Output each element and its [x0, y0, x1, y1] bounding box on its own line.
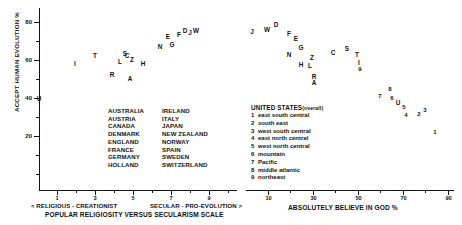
data-point: C — [331, 50, 336, 56]
us-legend-index: 5 — [251, 143, 258, 151]
left-x-tick-label-7: 7 — [165, 195, 177, 201]
left-x-caption-religious: < RELIGIOUS - CREATIONIST — [31, 203, 117, 209]
data-point: H — [141, 61, 146, 67]
left-y-tick-20 — [34, 136, 40, 137]
data-point: A — [312, 80, 317, 86]
us-legend-index: 3 — [251, 128, 258, 136]
right-x-tick-label-90: 90 — [442, 195, 455, 201]
data-point: Z — [310, 55, 314, 61]
us-legend-label: mountain — [258, 151, 285, 157]
us-legend-item: 2south east — [251, 120, 323, 128]
right-x-tick-minor — [290, 190, 291, 193]
legend-item: JAPAN — [162, 122, 208, 130]
left-y-tick-label-60: 60 — [18, 57, 32, 63]
data-point: E — [294, 36, 298, 42]
left-y-tick-label-20: 20 — [18, 133, 32, 139]
us-legend-item: 9northeast — [251, 174, 323, 182]
legend-item: ENGLAND — [108, 138, 144, 146]
us-legend-label: west south central — [258, 128, 311, 134]
data-point: 9 — [358, 66, 361, 72]
us-legend-item: 5west north central — [251, 143, 323, 151]
data-point: J — [188, 30, 192, 36]
data-point: T — [93, 53, 97, 59]
us-legend-title-suffix: (overall) — [302, 105, 323, 111]
left-x-tick-minor — [190, 190, 191, 193]
right-x-tick-label-70: 70 — [397, 195, 410, 201]
left-x-tick-minor — [76, 190, 77, 193]
data-point: U — [396, 100, 401, 106]
us-legend-index: 4 — [251, 135, 258, 143]
data-point: F — [287, 31, 291, 37]
us-legend-label: middle atlantic — [258, 167, 300, 173]
data-point: 2 — [417, 111, 420, 117]
us-legend-title-text: UNITED STATES — [251, 104, 302, 111]
data-point: 5 — [402, 104, 405, 110]
data-point: D — [274, 22, 279, 28]
us-legend-label: south east — [258, 120, 288, 126]
us-legend-index: 8 — [251, 167, 258, 175]
left-x-tick-minor — [228, 190, 229, 193]
scatter-figure: 80 60 40 20 ACCEPT HUMAN EVOLUTION % 1 3… — [0, 0, 462, 225]
left-y-tick-label-80: 80 — [18, 19, 32, 25]
left-x-caption-main: POPULAR RELIGIOSITY VERSUS SECULARISM SC… — [45, 211, 224, 218]
right-x-tick-label-50: 50 — [352, 195, 365, 201]
legend-item: AUSTRALIA — [108, 107, 144, 115]
data-point: G — [299, 45, 304, 51]
right-x-tick-label-30: 30 — [307, 195, 320, 201]
legend-item: HOLLAND — [108, 161, 144, 169]
legend-item: DENMARK — [108, 130, 144, 138]
left-y-tick-60 — [34, 60, 40, 61]
data-point: C — [125, 53, 130, 59]
data-point: 8 — [388, 86, 391, 92]
us-legend-index: 1 — [251, 112, 258, 120]
left-x-tick-label-5: 5 — [127, 195, 139, 201]
us-legend-index: 7 — [251, 159, 258, 167]
us-legend-item: 8middle atlantic — [251, 167, 323, 175]
right-x-tick-label-10: 10 — [262, 195, 275, 201]
left-y-tick-minor — [36, 41, 40, 42]
data-point: 4 — [404, 112, 407, 118]
left-y-tick-minor — [36, 174, 40, 175]
us-legend-label: northeast — [258, 174, 285, 180]
data-point: N — [158, 44, 163, 50]
us-legend-item: 1east south central — [251, 112, 323, 120]
country-legend-column-one: AUSTRALIA AUSTRIA CANADA DENMARK ENGLAND… — [108, 107, 144, 169]
left-x-axis-line — [39, 190, 237, 191]
country-legend-column-two: IRELAND ITALY JAPAN NEW ZEALAND NORWAY S… — [162, 107, 208, 169]
left-y-tick-minor — [36, 155, 40, 156]
data-point: G — [170, 42, 175, 48]
left-x-tick-minor — [152, 190, 153, 193]
data-point: R — [110, 72, 115, 78]
left-y-tick-label-40: 40 — [18, 95, 32, 101]
legend-item: SWEDEN — [162, 153, 208, 161]
left-y-tick-minor — [36, 79, 40, 80]
us-legend-label: east north central — [258, 135, 308, 141]
data-point: S — [345, 46, 349, 52]
data-point: F — [177, 32, 181, 38]
data-point: W — [264, 27, 270, 33]
us-legend-index: 6 — [251, 151, 258, 159]
left-x-tick-label-9: 9 — [203, 195, 215, 201]
data-point: 3 — [423, 107, 426, 113]
left-y-tick-80 — [34, 22, 40, 23]
data-point: T — [355, 52, 359, 58]
us-legend-index: 2 — [251, 120, 258, 128]
left-panel: 80 60 40 20 ACCEPT HUMAN EVOLUTION % 1 3… — [0, 0, 240, 225]
legend-item: NEW ZEALAND — [162, 130, 208, 138]
data-point: Z — [130, 57, 134, 63]
us-legend-item: 4east north central — [251, 135, 323, 143]
data-point: U — [37, 96, 42, 102]
legend-item: NORWAY — [162, 138, 208, 146]
left-x-caption-secular: SECULAR - PRO-EVOLUTION > — [150, 203, 242, 209]
us-legend-title: UNITED STATES(overall) — [251, 104, 323, 111]
data-point: 6 — [390, 95, 393, 101]
left-x-tick-minor — [114, 190, 115, 193]
right-panel: 10 30 50 70 90 ABSOLUTELY BELIEVE IN GOD… — [240, 0, 462, 225]
us-legend-item: 3west south central — [251, 128, 323, 136]
left-y-axis-title: ACCEPT HUMAN EVOLUTION % — [13, 12, 20, 112]
right-x-tick-minor — [380, 190, 381, 193]
us-legend-item: 6mountain — [251, 151, 323, 159]
us-legend-label: Pacific — [258, 159, 277, 165]
data-point: L — [308, 63, 312, 69]
data-point: E — [166, 34, 170, 40]
